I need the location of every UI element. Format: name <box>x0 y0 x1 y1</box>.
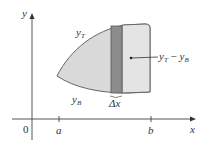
bottom-curve-label: yB <box>71 93 82 107</box>
tick-label-a: a <box>56 124 62 136</box>
y-axis-label: y <box>21 7 27 19</box>
area-between-curves-diagram: y x 0 a b yT yB yT − yB Δx <box>0 0 202 148</box>
top-curve-label: yT <box>75 26 86 40</box>
y-axis-arrow-icon <box>30 13 35 19</box>
delta-x-label: Δx <box>108 97 120 109</box>
x-axis-arrow-icon <box>190 117 196 122</box>
height-pointer-dot <box>130 57 133 60</box>
approximating-rectangle-strip <box>111 26 122 93</box>
height-label: yT − yB <box>158 50 189 64</box>
region-right-part <box>122 24 150 93</box>
origin-label: 0 <box>23 123 29 135</box>
tick-label-b: b <box>148 124 154 136</box>
x-axis-label: x <box>189 123 195 135</box>
